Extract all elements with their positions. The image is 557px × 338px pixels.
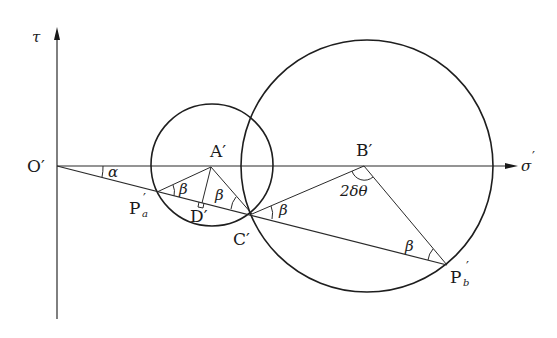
tau-label: τ <box>32 28 41 46</box>
point-pb-sub: b <box>463 277 469 288</box>
small-circle-a <box>151 104 273 226</box>
point-b-label: B′ <box>356 140 372 160</box>
mohr-circle-diagram: τ σ ′ O′ A′ B′ C′ D′ P a ′ P b ′ α β β β… <box>0 0 557 338</box>
line-a-to-d <box>202 167 211 203</box>
alpha-arc-icon <box>102 166 103 177</box>
point-pb-prime: ′ <box>466 259 469 274</box>
origin-label: O′ <box>27 156 45 176</box>
point-pb-main: P <box>450 267 461 287</box>
alpha-label: α <box>108 163 118 181</box>
beta-label-pb: β <box>404 237 414 255</box>
sigma-prime: ′ <box>532 149 535 164</box>
beta-label-a-c: β <box>214 186 224 204</box>
point-d-label: D′ <box>190 206 208 226</box>
point-pa-prime: ′ <box>143 191 146 206</box>
beta-arc-c-large-icon <box>271 206 273 219</box>
beta-arc-c-small-icon <box>231 197 236 209</box>
point-a-label: A′ <box>209 141 226 161</box>
beta-arc-pa-icon <box>173 185 174 196</box>
beta-arc-pb-icon <box>428 249 433 260</box>
two-delta-theta-label: 2δθ <box>339 182 368 200</box>
point-c-label: C′ <box>233 229 250 249</box>
tau-axis-arrow-icon <box>54 27 60 40</box>
point-pa-label: P a ′ <box>129 191 148 219</box>
point-pa-sub: a <box>142 208 148 219</box>
point-pb-label: P b ′ <box>450 259 469 288</box>
sigma-axis-arrow-icon <box>505 163 518 169</box>
sigma-label: σ <box>521 157 532 175</box>
beta-label-pa: β <box>178 180 188 198</box>
point-pa-main: P <box>129 198 140 218</box>
beta-label-c: β <box>278 201 288 219</box>
